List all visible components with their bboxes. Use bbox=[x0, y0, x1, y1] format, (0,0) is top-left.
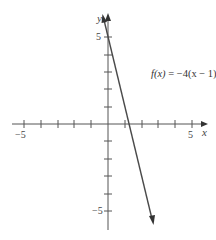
y-axis-arrow-icon bbox=[105, 13, 111, 21]
x-axis-label: x bbox=[202, 127, 207, 138]
function-equation-label: f(x) = −4(x − 1) + 1 bbox=[151, 68, 216, 79]
y-tick-label-max: 5 bbox=[96, 32, 101, 42]
y-tick-label-min: −5 bbox=[92, 206, 103, 216]
function-graph bbox=[0, 0, 216, 240]
function-expression: = −4(x − 1) + 1 bbox=[166, 68, 216, 79]
function-line bbox=[104, 20, 152, 219]
x-tick-label-max: 5 bbox=[188, 130, 193, 140]
x-tick-label-min: −5 bbox=[15, 130, 26, 140]
function-name: f(x) bbox=[151, 68, 166, 79]
line-arrow-bottom-icon bbox=[149, 215, 155, 225]
y-axis-label: y bbox=[97, 13, 102, 24]
